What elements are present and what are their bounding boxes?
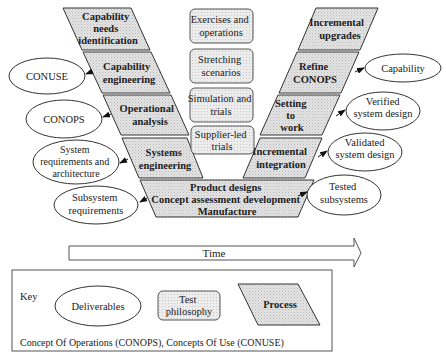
svg-text:Time: Time (203, 247, 226, 259)
time-arrow: Time (69, 238, 361, 267)
right-process-3: Setting to work (260, 95, 340, 135)
deliverable-capability: Capability (355, 54, 441, 82)
deliverable-conuse: CONUSE (9, 58, 91, 94)
left-process-3: Operational analysis (103, 95, 189, 135)
left-process-2: Capability engineering (83, 52, 170, 93)
svg-text:CONOPS: CONOPS (43, 114, 85, 125)
left-process-1: Capability needs identification (63, 8, 150, 50)
svg-text:Key: Key (20, 291, 38, 302)
deliverable-subsystem-requirements: Subsystem requirements (54, 186, 147, 224)
v-model-diagram: Capability needs identification Capabili… (0, 0, 446, 364)
svg-text:Deliverables: Deliverables (71, 301, 124, 312)
svg-text:Process: Process (263, 299, 297, 310)
test-philosophy-4: Supplier-led trials (191, 126, 254, 154)
bottom-process: Product designs Concept assessment devel… (140, 180, 314, 217)
test-philosophy-3: Simulation and trials (188, 88, 255, 122)
key-test-philosophy-box: Test philosophy (158, 291, 220, 320)
right-process-1: Incremental upgrades (298, 8, 378, 50)
deliverable-conops: CONOPS (26, 100, 111, 138)
svg-text:Validated system design: Validated system design (335, 137, 395, 160)
deliverable-verified-system-design: Verified system design (336, 92, 420, 130)
key-footnote: Concept Of Operations (CONOPS), Concepts… (20, 337, 284, 349)
test-philosophy-2: Stretching scenarios (190, 49, 253, 83)
key-deliverables-ellipse: Deliverables (55, 286, 141, 326)
svg-text:CONUSE: CONUSE (26, 71, 68, 82)
deliverable-validated-system-design: Validated system design (318, 133, 402, 171)
right-process-4: Incremental integration (243, 138, 322, 178)
svg-text:Capability: Capability (381, 63, 425, 74)
test-philosophy-1: Exercises and operations (190, 9, 253, 43)
right-process-2: Refine CONOPS (279, 52, 359, 93)
key-box: Key Deliverables Test philosophy Process… (12, 270, 332, 351)
deliverable-system-requirements: System requirements and architecture (33, 140, 128, 184)
